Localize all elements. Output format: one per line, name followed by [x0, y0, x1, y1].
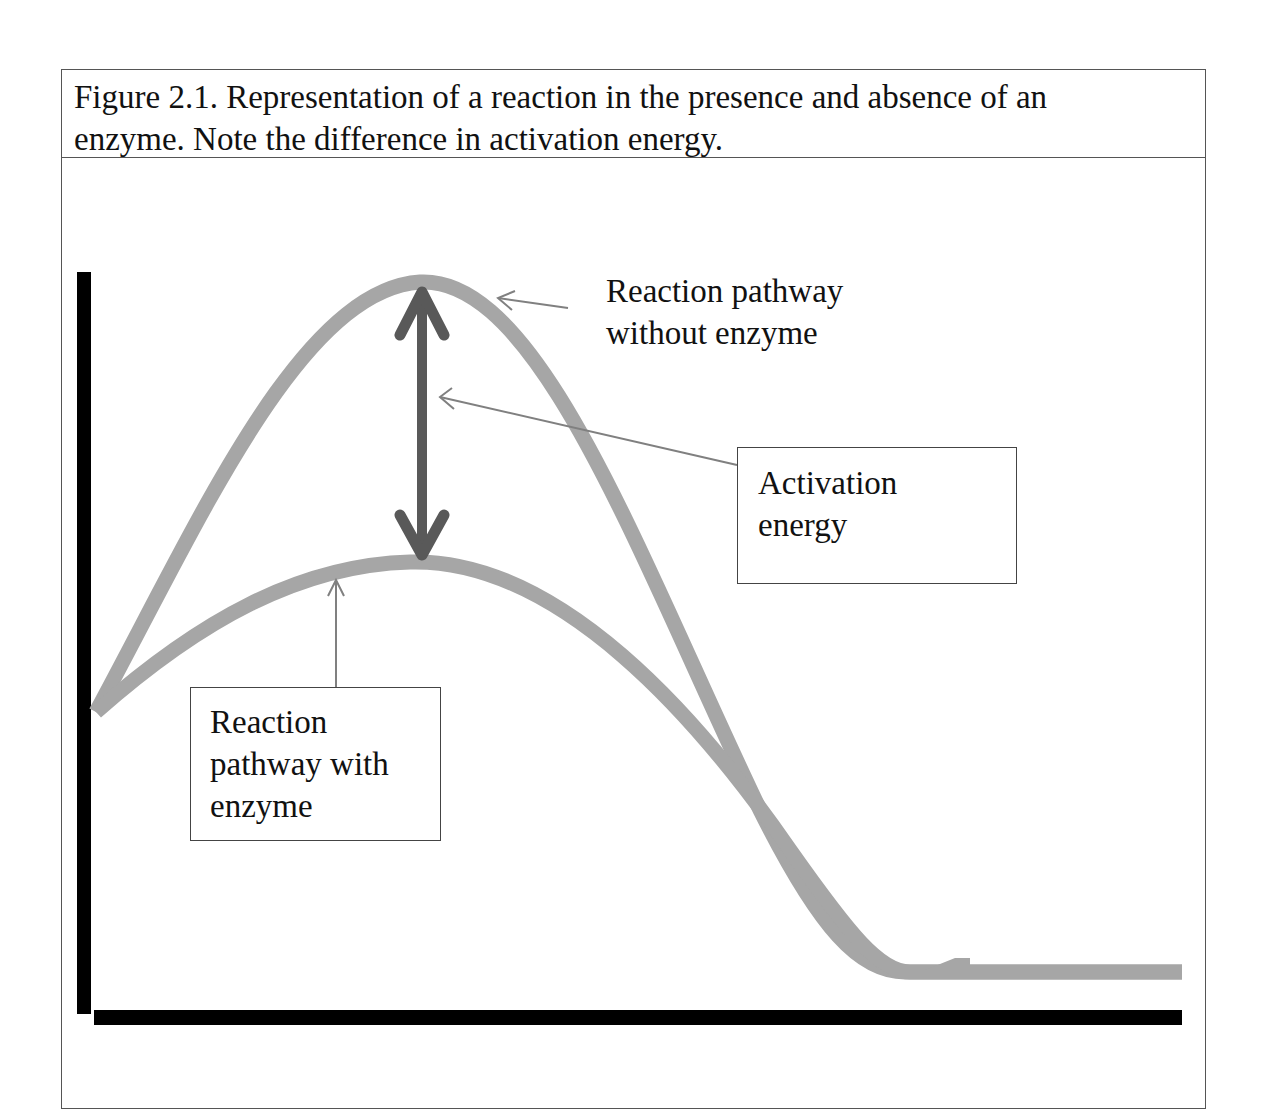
y-axis	[77, 272, 91, 1014]
curve-artifact	[925, 958, 970, 970]
pointer-with-enzyme	[328, 580, 344, 687]
x-axis	[94, 1010, 1182, 1025]
pointer-without-enzyme	[498, 291, 568, 310]
label-with-enzyme: Reaction pathway with enzyme	[190, 687, 441, 841]
label-without-enzyme: Reaction pathway without enzyme	[606, 270, 843, 354]
curve-without-enzyme	[96, 282, 1182, 972]
activation-energy-arrow	[400, 292, 444, 555]
label-activation-energy: Activation energy	[737, 447, 1017, 584]
